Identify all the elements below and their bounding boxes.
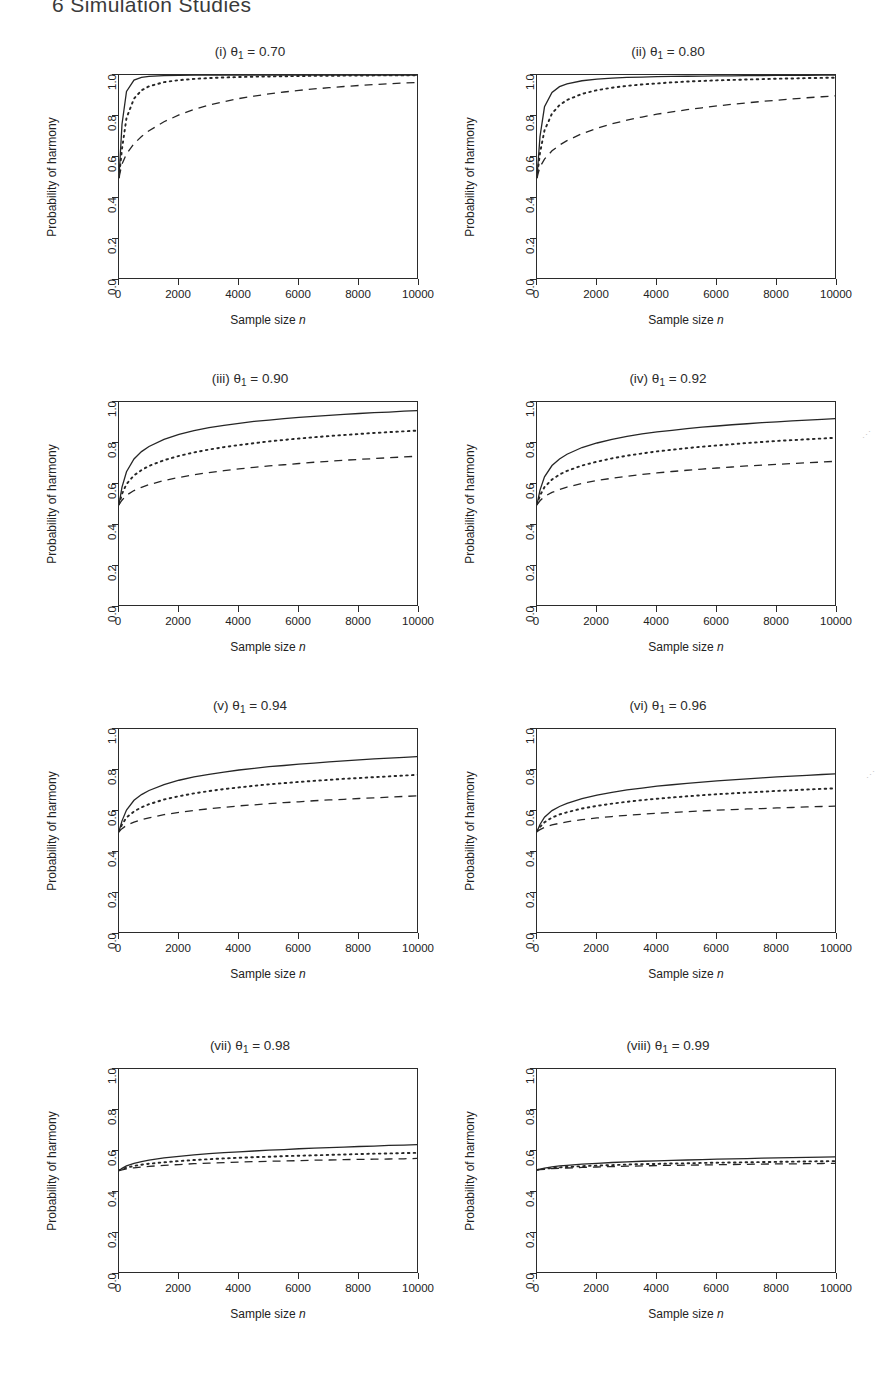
x-tick-label: 6000 xyxy=(285,615,311,627)
curve-solid xyxy=(537,774,836,832)
y-tick-label: 0.4 xyxy=(524,197,536,213)
x-tick-label: 8000 xyxy=(345,1282,371,1294)
curve-dashed xyxy=(119,1158,418,1170)
x-tick-mark xyxy=(298,279,299,285)
x-tick-mark xyxy=(178,1273,179,1279)
y-axis-iv: 0.00.20.40.60.81.0 xyxy=(492,401,536,606)
x-axis-label: Sample size n xyxy=(230,967,305,981)
plot-frame-viii xyxy=(536,1068,836,1273)
x-tick-mark xyxy=(656,606,657,612)
x-tick-mark xyxy=(238,279,239,285)
y-tick-label: 0.6 xyxy=(524,810,536,826)
x-axis-label: Sample size n xyxy=(230,313,305,327)
plot-frame-iv xyxy=(536,401,836,606)
x-tick-mark xyxy=(536,1273,537,1279)
x-tick-label: 6000 xyxy=(703,615,729,627)
x-tick-label: 10000 xyxy=(820,615,852,627)
y-tick-label: 1.0 xyxy=(524,401,536,417)
curve-dashed xyxy=(119,796,418,832)
x-tick-mark xyxy=(118,279,119,285)
curve-dotted xyxy=(119,1153,418,1171)
x-tick-label: 2000 xyxy=(165,615,191,627)
y-tick-label: 0.8 xyxy=(106,1109,118,1125)
y-tick-label: 0.6 xyxy=(106,1150,118,1166)
y-tick-label: 1.0 xyxy=(524,74,536,90)
x-tick-mark xyxy=(118,606,119,612)
x-tick-label: 2000 xyxy=(583,942,609,954)
panel-v: (v) θ1 = 0.940.00.20.40.60.81.0Probabili… xyxy=(40,698,460,1018)
x-axis-label: Sample size n xyxy=(230,1307,305,1321)
curve-dotted xyxy=(537,1161,836,1170)
curve-solid xyxy=(119,411,418,505)
x-tick-mark xyxy=(716,933,717,939)
y-tick-label: 0.6 xyxy=(106,810,118,826)
y-axis-vii: 0.00.20.40.60.81.0 xyxy=(74,1068,118,1273)
curve-solid xyxy=(537,75,836,177)
x-tick-mark xyxy=(536,606,537,612)
y-axis-label: Probability of harmony xyxy=(463,444,477,563)
x-tick-mark xyxy=(776,279,777,285)
x-tick-mark xyxy=(656,279,657,285)
x-tick-mark xyxy=(238,1273,239,1279)
x-tick-label: 4000 xyxy=(225,615,251,627)
y-axis-label: Probability of harmony xyxy=(463,1111,477,1230)
x-tick-mark xyxy=(716,1273,717,1279)
x-tick-mark xyxy=(238,606,239,612)
x-tick-label: 10000 xyxy=(402,1282,434,1294)
x-tick-mark xyxy=(596,279,597,285)
plot-area-v: 0.00.20.40.60.81.0Probability of harmony… xyxy=(118,728,418,933)
x-axis-vi: 0200040006000800010000Sample size n xyxy=(536,933,836,989)
x-tick-label: 8000 xyxy=(345,615,371,627)
x-tick-label: 4000 xyxy=(643,942,669,954)
y-tick-label: 0.4 xyxy=(106,524,118,540)
x-tick-mark xyxy=(298,1273,299,1279)
y-tick-label: 0.8 xyxy=(524,115,536,131)
curve-solid xyxy=(119,756,418,831)
x-tick-mark xyxy=(836,1273,837,1279)
x-tick-label: 4000 xyxy=(643,288,669,300)
y-tick-label: 0.2 xyxy=(106,238,118,254)
y-axis-label: Probability of harmony xyxy=(45,1111,59,1230)
x-tick-label: 8000 xyxy=(345,288,371,300)
panel-title-iii: (iii) θ1 = 0.90 xyxy=(40,371,460,388)
y-axis-ii: 0.00.20.40.60.81.0 xyxy=(492,74,536,279)
plot-area-i: 0.00.20.40.60.81.0Probability of harmony… xyxy=(118,74,418,279)
x-tick-mark xyxy=(596,933,597,939)
panel-iv: (iv) θ1 = 0.920.00.20.40.60.81.0Probabil… xyxy=(458,371,878,691)
panel-title-i: (i) θ1 = 0.70 xyxy=(40,44,460,61)
x-tick-mark xyxy=(596,1273,597,1279)
x-axis-label: Sample size n xyxy=(648,967,723,981)
y-tick-label: 0.8 xyxy=(524,1109,536,1125)
curve-solid xyxy=(537,419,836,505)
curve-dashed xyxy=(537,806,836,831)
x-axis-label: Sample size n xyxy=(648,313,723,327)
curve-solid xyxy=(119,75,418,178)
x-tick-mark xyxy=(298,606,299,612)
x-tick-label: 10000 xyxy=(402,288,434,300)
x-tick-label: 4000 xyxy=(643,1282,669,1294)
x-tick-mark xyxy=(418,1273,419,1279)
y-axis-label: Probability of harmony xyxy=(463,117,477,236)
curve-dotted xyxy=(537,788,836,831)
page-header: 6 Simulation Studies xyxy=(52,0,251,17)
x-tick-mark xyxy=(536,279,537,285)
y-axis-vi: 0.00.20.40.60.81.0 xyxy=(492,728,536,933)
x-tick-label: 0 xyxy=(533,1282,539,1294)
x-tick-mark xyxy=(358,1273,359,1279)
y-tick-label: 0.2 xyxy=(524,892,536,908)
y-tick-label: 0.8 xyxy=(106,442,118,458)
plot-area-ii: 0.00.20.40.60.81.0Probability of harmony… xyxy=(536,74,836,279)
x-tick-label: 2000 xyxy=(583,1282,609,1294)
x-tick-label: 2000 xyxy=(165,1282,191,1294)
plot-area-viii: 0.00.20.40.60.81.0Probability of harmony… xyxy=(536,1068,836,1273)
y-axis-viii: 0.00.20.40.60.81.0 xyxy=(492,1068,536,1273)
x-tick-label: 2000 xyxy=(165,942,191,954)
x-tick-mark xyxy=(238,933,239,939)
x-tick-label: 10000 xyxy=(402,942,434,954)
x-tick-mark xyxy=(118,933,119,939)
panel-i: (i) θ1 = 0.700.00.20.40.60.81.0Probabili… xyxy=(40,44,460,364)
x-tick-label: 6000 xyxy=(285,288,311,300)
panel-iii: (iii) θ1 = 0.900.00.20.40.60.81.0Probabi… xyxy=(40,371,460,691)
panel-title-iv: (iv) θ1 = 0.92 xyxy=(458,371,878,388)
plot-frame-ii xyxy=(536,74,836,279)
